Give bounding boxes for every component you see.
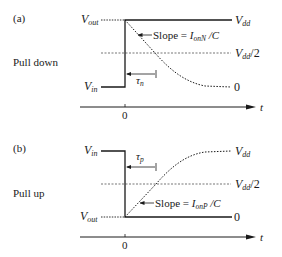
rc-delay-diagram: (a) Pull down Vout Vin Vdd Vdd/2 0 Slope… <box>0 0 282 257</box>
panel-a-caption: Pull down <box>13 56 58 68</box>
time-origin-label: 0 <box>122 109 128 121</box>
time-origin-label: 0 <box>122 239 128 251</box>
time-axis-arrow-icon <box>246 235 256 240</box>
v-out-label: Vout <box>80 209 98 224</box>
vdd-label: Vdd <box>235 13 251 28</box>
tau-n-arrow-left-icon <box>126 72 131 76</box>
time-axis-label: t <box>260 101 264 113</box>
panel-b-pull-up: (b) Pull up Vin Vout Vdd/2 Vdd 0 Slope =… <box>13 142 264 251</box>
panel-b-tag: (b) <box>13 142 26 155</box>
zero-level-label: 0 <box>234 210 240 224</box>
tau-p-arrow-left-icon <box>126 165 131 169</box>
tau-p-label: τp <box>136 150 144 164</box>
vdd-half-label: Vdd/2 <box>235 177 260 192</box>
tau-n-label: τn <box>136 74 144 88</box>
v-out-label: Vout <box>81 12 99 27</box>
panel-a-tag: (a) <box>13 12 26 25</box>
v-in-label: Vin <box>84 79 98 94</box>
panel-b-caption: Pull up <box>13 187 45 199</box>
slope-label: Slope = IonP /C <box>155 197 221 211</box>
zero-level-label: 0 <box>234 80 240 94</box>
time-axis-label: t <box>260 231 264 243</box>
time-axis-arrow-icon <box>246 105 256 110</box>
slope-label: Slope = IonN /C <box>153 29 220 43</box>
vdd-label: Vdd <box>235 144 251 159</box>
v-in-label: Vin <box>84 143 98 158</box>
vdd-half-label: Vdd/2 <box>235 46 260 61</box>
panel-a-pull-down: (a) Pull down Vout Vin Vdd Vdd/2 0 Slope… <box>13 12 264 121</box>
